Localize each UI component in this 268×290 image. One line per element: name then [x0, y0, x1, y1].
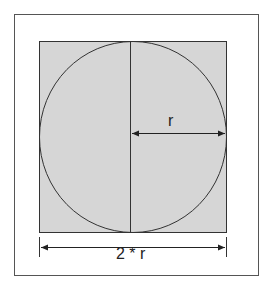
circle-in-square-diagram: r 2 * r: [0, 0, 268, 290]
radius-label: r: [168, 113, 173, 129]
diameter-label: 2 * r: [116, 246, 145, 262]
square: [40, 42, 227, 233]
